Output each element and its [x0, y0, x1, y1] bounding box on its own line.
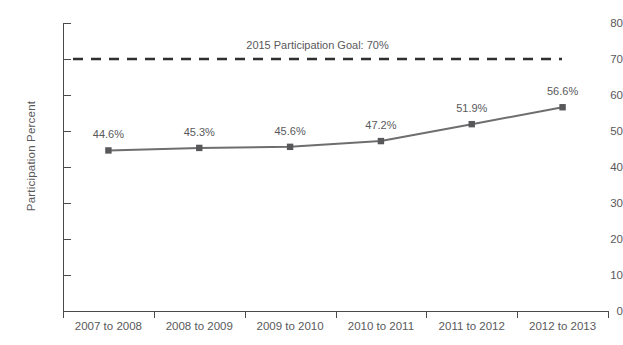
- series-marker[interactable]: [469, 121, 475, 127]
- point-value-label: 45.6%: [274, 125, 305, 137]
- series-marker[interactable]: [105, 147, 111, 153]
- point-value-label: 56.6%: [547, 85, 578, 97]
- series-marker[interactable]: [559, 104, 565, 110]
- point-value-label: 47.2%: [365, 119, 396, 131]
- series-marker[interactable]: [378, 138, 384, 144]
- point-value-label: 51.9%: [456, 102, 487, 114]
- series-line: [108, 107, 562, 150]
- point-value-label: 45.3%: [184, 126, 215, 138]
- goal-annotation-label: 2015 Participation Goal: 70%: [246, 39, 388, 51]
- series-marker[interactable]: [287, 144, 293, 150]
- participation-line-chart: Participation Percent 01020304050607080 …: [0, 0, 623, 345]
- point-value-label: 44.6%: [93, 128, 124, 140]
- series-marker[interactable]: [196, 145, 202, 151]
- plot-area: [0, 0, 623, 345]
- series-markers: [105, 104, 566, 154]
